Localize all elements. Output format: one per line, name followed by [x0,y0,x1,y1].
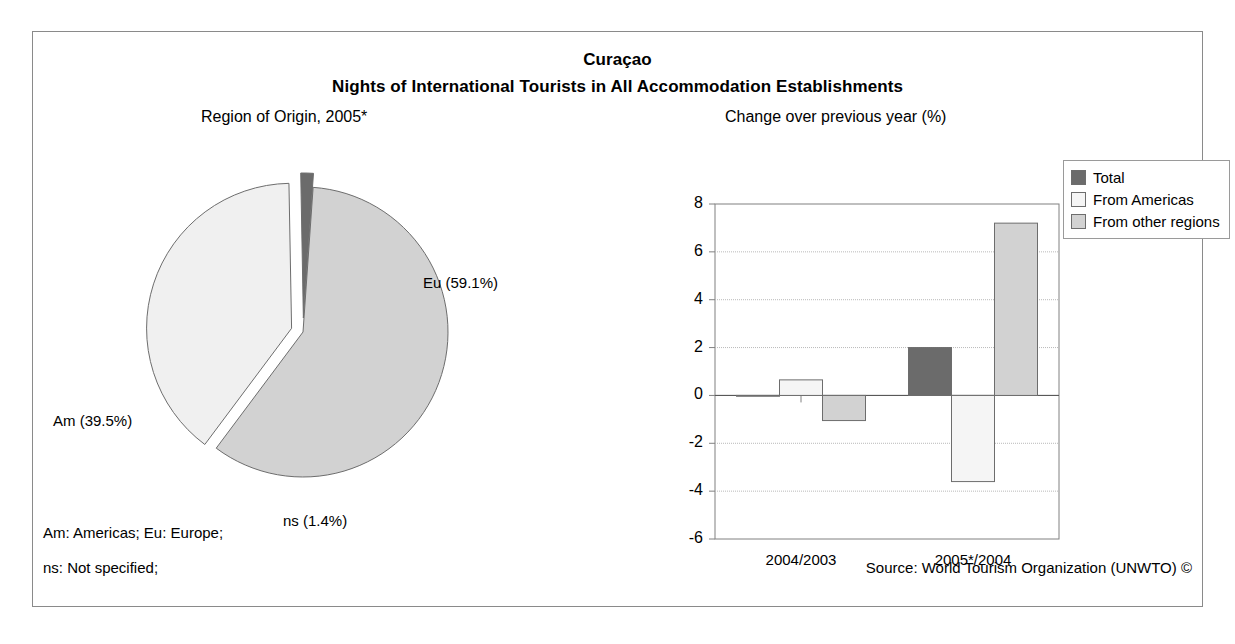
legend-swatch-icon [1071,170,1086,185]
pie-slice-label-eu: Eu (59.1%) [423,274,498,291]
chart-figure-container: Curaçao Nights of International Tourists… [32,31,1203,607]
source-attribution: Source: World Tourism Organization (UNWT… [866,559,1192,576]
pie-chart-svg [33,132,633,552]
legend-item-from-other-regions[interactable]: From other regions [1071,210,1220,232]
chart-subtitle: Nights of International Tourists in All … [33,77,1202,97]
footnote-abbreviations: Am: Americas; Eu: Europe; [43,524,223,541]
y-axis-tick-2: 2 [669,338,703,356]
y-axis-tick-4: 4 [669,290,703,308]
bar-total-0 [737,395,780,396]
bar-panel-title: Change over previous year (%) [725,108,946,126]
legend-swatch-icon [1071,192,1086,207]
pie-panel-title: Region of Origin, 2005* [201,108,367,126]
y-axis-tick--6: -6 [669,529,703,547]
footnote-not-specified: ns: Not specified; [43,559,158,576]
pie-slice-label-ns: ns (1.4%) [283,512,347,529]
legend-label: From Americas [1093,192,1194,207]
y-axis-tick--2: -2 [669,433,703,451]
bar-from-other-regions-0 [823,395,866,420]
bar-from-other-regions-1 [995,223,1038,395]
y-axis-tick-8: 8 [669,194,703,212]
bar-chart-panel: 86420-2-4-6 2004/20032005*/2004 TotalFro… [633,132,1193,572]
legend-label: Total [1093,170,1125,185]
legend-item-from-americas[interactable]: From Americas [1071,188,1220,210]
bar-from-americas-0 [780,380,823,396]
x-axis-tick-0: 2004/2003 [731,551,871,568]
legend-swatch-icon [1071,214,1086,229]
pie-chart-panel: Eu (59.1%) Am (39.5%) ns (1.4%) [33,132,633,552]
y-axis-tick-6: 6 [669,242,703,260]
y-axis-tick-0: 0 [669,385,703,403]
chart-legend: TotalFrom AmericasFrom other regions [1063,160,1230,239]
y-axis-tick--4: -4 [669,481,703,499]
pie-slice-label-am: Am (39.5%) [53,412,132,429]
chart-title: Curaçao [33,50,1202,70]
legend-label: From other regions [1093,214,1220,229]
bar-total-1 [909,348,952,396]
legend-item-total[interactable]: Total [1071,166,1220,188]
bar-from-americas-1 [952,395,995,481]
